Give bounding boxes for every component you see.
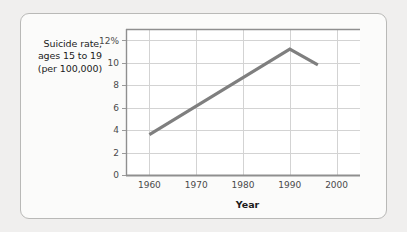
y-axis-tick-label: 8 (113, 80, 119, 90)
plot-area: 024681012% 19601970198019902000 (0, 0, 407, 232)
y-axis-tick-label: 12% (99, 36, 119, 46)
y-axis-tick-label: 2 (113, 148, 119, 158)
y-axis-tick-label: 0 (113, 170, 119, 180)
x-axis-tick-label: 1970 (185, 180, 208, 190)
y-axis-tick-label: 6 (113, 103, 119, 113)
chart-figure: Suicide rate, ages 15 to 19 (per 100,000… (0, 0, 407, 232)
x-axis-tick-labels: 19601970198019902000 (138, 180, 348, 190)
y-axis-tick-labels: 024681012% (99, 36, 119, 181)
y-axis-tick-label: 10 (108, 58, 120, 68)
x-axis-tick-label: 1980 (232, 180, 255, 190)
x-axis-tick-label: 2000 (325, 180, 348, 190)
x-axis-tick-label: 1990 (278, 180, 301, 190)
x-axis-tick-label: 1960 (138, 180, 161, 190)
y-axis-tick-label: 4 (113, 125, 119, 135)
y-axis-tick-marks (122, 41, 126, 176)
